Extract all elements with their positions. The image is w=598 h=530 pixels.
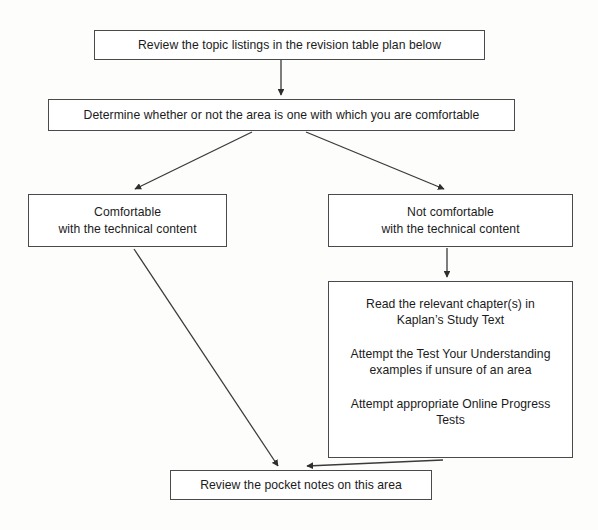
node-not-comfortable-line-2: with the technical content [381,221,519,237]
study-action-read-chapters-line-1: Read the relevant chapter(s) in [366,296,535,312]
study-action-read-chapters-line-2: Kaplan’s Study Text [366,312,535,328]
study-action-test-understanding-line-2: examples if unsure of an area [350,362,550,378]
node-determine-area-line-1: Determine whether or not the area is one… [84,107,480,123]
node-comfortable-line-1: Comfortable [94,204,161,220]
node-comfortable-line-2: with the technical content [58,221,196,237]
node-comfortable[interactable]: Comfortable with the technical content [28,194,227,247]
study-action-online-progress-tests-line-1: Attempt appropriate Online Progress [351,396,551,412]
edge-determine-to-not-comfortable [306,132,444,189]
study-action-online-progress-tests-line-2: Tests [351,412,551,428]
edge-determine-to-comfortable [135,132,252,189]
node-pocket-notes[interactable]: Review the pocket notes on this area [170,470,432,500]
study-action-test-understanding-line-1: Attempt the Test Your Understanding [350,346,550,362]
flowchart-canvas: Review the topic listings in the revisio… [0,0,598,530]
edge-comfortable-to-pocket-notes [134,249,278,466]
node-not-comfortable[interactable]: Not comfortable with the technical conte… [328,194,573,247]
study-action-read-chapters: Read the relevant chapter(s) in Kaplan’s… [366,296,535,329]
node-review-topics[interactable]: Review the topic listings in the revisio… [94,30,485,60]
node-review-topics-line-1: Review the topic listings in the revisio… [138,37,441,53]
node-pocket-notes-line-1: Review the pocket notes on this area [200,477,402,493]
node-not-comfortable-line-1: Not comfortable [407,204,494,220]
study-action-test-understanding: Attempt the Test Your Understanding exam… [350,346,550,379]
study-action-online-progress-tests: Attempt appropriate Online Progress Test… [351,396,551,429]
edge-study-to-pocket-notes [307,460,443,466]
node-determine-area[interactable]: Determine whether or not the area is one… [48,99,515,131]
node-study-actions[interactable]: Read the relevant chapter(s) in Kaplan’s… [328,281,573,458]
